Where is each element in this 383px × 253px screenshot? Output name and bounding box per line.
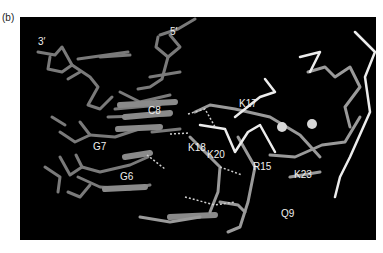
label-3-prime: 3′ [38, 37, 45, 47]
panel-letter: (b) [2, 12, 14, 23]
label-k17: K17 [239, 99, 257, 109]
molecular-structure-figure: 3′ 5′ C8 G7 G6 K17 K18 K20 R15 K23 Q9 [20, 17, 376, 240]
structure-render [20, 17, 376, 240]
hydrogen-bonds [147, 109, 242, 205]
protein-highlight [200, 32, 375, 197]
label-5-prime: 5′ [170, 27, 177, 37]
label-q9: Q9 [281, 209, 294, 219]
label-k23: K23 [294, 170, 312, 180]
dna-strands [38, 19, 195, 197]
label-g7: G7 [93, 142, 106, 152]
label-k20: K20 [207, 150, 225, 160]
dna-bases [105, 102, 215, 217]
label-r15: R15 [253, 162, 271, 172]
metal-ions [277, 119, 317, 132]
protein-backbone [140, 67, 360, 232]
label-c8: C8 [148, 106, 161, 116]
label-k18: K18 [188, 143, 206, 153]
label-g6: G6 [120, 172, 133, 182]
